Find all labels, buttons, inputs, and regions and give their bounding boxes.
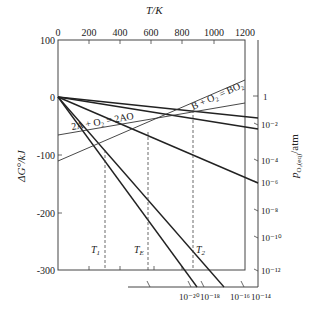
svg-text:10⁻¹⁶: 10⁻¹⁶ [230,292,250,302]
right-axis-ticks [253,96,258,271]
svg-text:400: 400 [113,27,128,38]
svg-text:0: 0 [50,92,55,103]
top-axis-labels: 0 200 400 600 800 1000 1200 [56,27,256,38]
svg-text:0: 0 [56,27,61,38]
bottom-scale-labels: 10⁻²⁰ 10⁻¹⁸ 10⁻¹⁶ 10⁻¹⁴ [179,292,271,302]
svg-text:10⁻²⁰: 10⁻²⁰ [179,292,200,302]
svg-text:T2: T2 [196,244,206,257]
reaction-B-label: B + O₂ = BO₂ [189,79,245,112]
ellingham-diagram: T/K 0 200 400 600 800 1000 1200 100 0 -1… [0,0,309,310]
svg-text:1000: 1000 [204,27,224,38]
svg-text:1200: 1200 [235,27,255,38]
svg-text:10⁻¹⁴: 10⁻¹⁴ [251,292,271,302]
left-axis-ticks [58,155,62,213]
right-axis-labels: 1 10⁻² 10⁻⁴ 10⁻⁶ 10⁻⁸ 10⁻¹⁰ 10⁻¹² [261,92,282,276]
temperature-marker-lines [105,110,193,270]
svg-text:200: 200 [82,27,97,38]
svg-text:800: 800 [175,27,190,38]
bottom-frame-ticks [89,266,182,270]
svg-text:TE: TE [134,244,145,257]
top-axis-title: T/K [146,4,163,16]
svg-text:10⁻⁴: 10⁻⁴ [261,156,278,166]
svg-text:pO₂(eq)/atm: pO₂(eq)/atm [288,134,303,179]
svg-text:10⁻¹²: 10⁻¹² [261,266,281,276]
top-axis-ticks [89,40,214,44]
right-axis-title: pO₂(eq)/atm [288,134,303,179]
svg-text:10⁻⁶: 10⁻⁶ [261,178,278,188]
svg-text:1: 1 [263,92,268,102]
svg-text:600: 600 [144,27,159,38]
svg-text:T1: T1 [91,244,100,257]
svg-text:-300: -300 [37,265,55,276]
left-axis-title: ΔG°/kJ [15,149,27,183]
svg-text:100: 100 [40,35,55,46]
svg-text:10⁻¹⁸: 10⁻¹⁸ [200,292,220,302]
svg-text:10⁻¹⁰: 10⁻¹⁰ [261,233,282,243]
svg-text:-100: -100 [37,150,55,161]
left-axis-labels: 100 0 -100 -200 -300 [37,35,55,276]
svg-text:10⁻⁸: 10⁻⁸ [261,206,278,216]
reaction-A-label: 2A + O₂ = 2AO [70,110,134,132]
plot-frame [58,40,245,270]
svg-text:10⁻²: 10⁻² [261,120,278,130]
svg-text:-200: -200 [37,208,55,219]
